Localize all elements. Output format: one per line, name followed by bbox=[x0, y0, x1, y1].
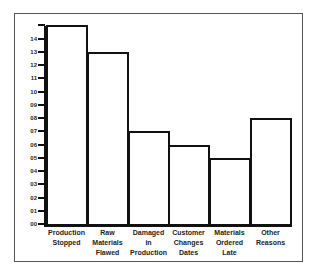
y-tick-label: 07 bbox=[17, 127, 37, 135]
y-tick-label: 03 bbox=[17, 180, 37, 188]
category-label: Customer Changes Dates bbox=[167, 228, 211, 258]
bar-customer-changes-dates bbox=[168, 145, 210, 225]
category-label: Raw Materials Flawed bbox=[86, 228, 130, 258]
y-tick-label: 00 bbox=[17, 220, 37, 228]
y-tick-label: 11 bbox=[17, 74, 37, 82]
y-tick-label: 13 bbox=[17, 48, 37, 56]
y-tick-label: 10 bbox=[17, 88, 37, 96]
category-label: Damaged in Production bbox=[127, 228, 171, 258]
y-tick-label: 09 bbox=[17, 101, 37, 109]
category-label: Production Stopped bbox=[45, 228, 89, 248]
y-tick-label: 08 bbox=[17, 114, 37, 122]
y-tick-label: 06 bbox=[17, 141, 37, 149]
y-tick-label: 05 bbox=[17, 154, 37, 162]
bar-other-reasons bbox=[250, 118, 292, 224]
bar-damaged-in-production bbox=[128, 131, 170, 224]
category-label: Other Reasons bbox=[249, 228, 293, 248]
y-tick-label: 04 bbox=[17, 167, 37, 175]
y-tick-label: 01 bbox=[17, 207, 37, 215]
y-tick-label: 14 bbox=[17, 35, 37, 43]
y-tick-label: 12 bbox=[17, 61, 37, 69]
category-label: Materials Ordered Late bbox=[208, 228, 252, 258]
y-tick-label: 02 bbox=[17, 194, 37, 202]
bar-production-stopped bbox=[46, 25, 88, 224]
bar-materials-ordered-late bbox=[209, 158, 251, 224]
bar-raw-materials-flawed bbox=[87, 52, 129, 224]
